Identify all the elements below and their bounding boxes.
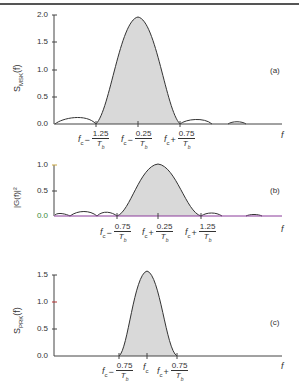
xlabel-b: f xyxy=(281,224,284,234)
ytick-a-0: 2.0 xyxy=(24,10,48,19)
ylabel-a: SMSK(f) xyxy=(12,64,24,92)
xtick-label-c-2: fc + 0.75Tb xyxy=(157,361,188,384)
xtick-label-a-0: fc − 1.25Tb xyxy=(78,129,109,152)
xtick-label-b-2: fc + 1.25Tb xyxy=(185,222,216,245)
ytick-c-1: 1.0 xyxy=(24,297,48,306)
ylabel-c: SPRK(f) xyxy=(12,307,24,334)
xtick-label-a-1: fc − 0.25Tb xyxy=(121,129,152,152)
ytick-c-3: 0.0 xyxy=(24,351,48,360)
xtick-label-a-2: fc + 0.75Tb xyxy=(164,129,195,152)
panel-b: 1.0 0.5 0.0 |G(f)|² (b) f fc − 0.75Tb fc… xyxy=(0,150,299,260)
ytick-b-0: 1.0 xyxy=(24,160,48,169)
xtick-label-c-0: fc − 0.75Tb xyxy=(102,361,133,384)
xlabel-c: f xyxy=(281,361,284,371)
panel-tag-c: (c) xyxy=(270,318,279,327)
xlabel-a: f xyxy=(281,130,284,140)
xtick-label-c-1: fc xyxy=(143,362,149,374)
panel-tag-b: (b) xyxy=(270,186,280,195)
ytick-b-1: 0.5 xyxy=(24,186,48,195)
ytick-a-2: 1.0 xyxy=(24,65,48,74)
xtick-label-b-1: fc + 0.25Tb xyxy=(142,222,173,245)
ytick-b-2: 0.0 xyxy=(24,211,48,220)
panel-tag-a: (a) xyxy=(270,66,280,75)
ytick-a-3: 0.5 xyxy=(24,92,48,101)
ylabel-b: |G(f)|² xyxy=(12,187,21,208)
ytick-c-2: 0.5 xyxy=(24,324,48,333)
panel-c: 1.5 1.0 0.5 0.0 SPRK(f) (c) f fc − 0.75T… xyxy=(0,260,299,389)
ytick-a-1: 1.5 xyxy=(24,37,48,46)
panel-a: 2.0 1.5 1.0 0.5 0.0 SMSK(f) (a) f fc − 1… xyxy=(0,0,299,150)
ytick-c-0: 1.5 xyxy=(24,270,48,279)
xtick-label-b-0: fc − 0.75Tb xyxy=(100,222,131,245)
ytick-a-4: 0.0 xyxy=(24,119,48,128)
